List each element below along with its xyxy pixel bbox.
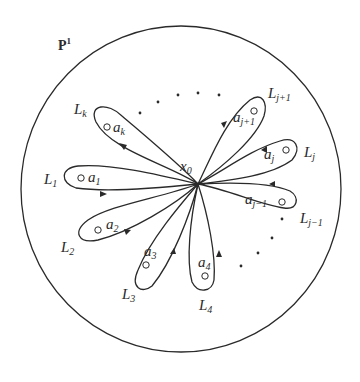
loop-label-L-1: L1 xyxy=(44,172,57,189)
point-label-a-2: a2 xyxy=(106,217,119,234)
loop-diagram xyxy=(0,0,360,382)
point-label-a-3: a3 xyxy=(144,244,157,261)
point-label-a-j: aj xyxy=(264,147,274,164)
loop-L-j xyxy=(198,140,297,184)
ellipsis-dot xyxy=(177,94,180,97)
loop-label-L-j-1: Lj−1 xyxy=(300,211,323,228)
puncture-a-j-1 xyxy=(279,199,285,205)
ellipsis-dot xyxy=(257,252,260,255)
point-label-a-j-1: aj−1 xyxy=(245,192,267,209)
loop-L-j+1 xyxy=(198,97,265,184)
loop-label-L-j: Lj xyxy=(304,145,315,162)
space-label-P1: P1 xyxy=(58,37,71,53)
loop-label-L-j+1: Lj+1 xyxy=(268,86,291,103)
ellipsis-dot xyxy=(197,92,200,95)
point-label-a-j+1: aj+1 xyxy=(233,110,255,127)
loop-L-2 xyxy=(79,184,198,241)
loop-label-L-2: L2 xyxy=(61,240,74,257)
ellipsis-dot xyxy=(271,237,274,240)
ellipsis-dot xyxy=(139,112,142,115)
arrow-L-1 xyxy=(100,191,107,197)
ellipsis-dot xyxy=(218,94,221,97)
arrow-L-4 xyxy=(216,250,222,257)
arrow-L-k xyxy=(119,143,127,150)
arrow-L-j+1 xyxy=(221,121,227,128)
puncture-a-3 xyxy=(143,262,149,268)
puncture-a-1 xyxy=(78,175,84,181)
puncture-a-j xyxy=(283,147,289,153)
loop-label-L-k: Lk xyxy=(74,102,87,119)
ellipsis-dot xyxy=(157,101,160,104)
loop-label-L-4: L4 xyxy=(199,298,212,315)
puncture-a-k xyxy=(104,124,110,130)
puncture-a-2 xyxy=(95,227,101,233)
arrow-L-2 xyxy=(124,229,131,235)
ellipsis-dot xyxy=(281,218,284,221)
ellipsis-dot xyxy=(240,265,243,268)
loop-label-L-3: L3 xyxy=(122,287,135,304)
point-label-a-1: a1 xyxy=(88,170,101,187)
puncture-a-4 xyxy=(202,273,208,279)
point-label-a-4: a4 xyxy=(198,255,211,272)
base-point-label: x0 xyxy=(180,159,192,176)
point-label-a-k: ak xyxy=(113,120,125,137)
